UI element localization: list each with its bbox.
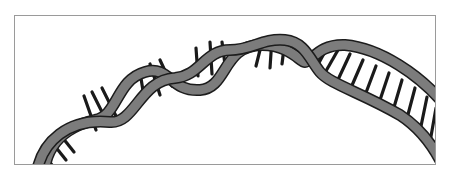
dna-illustration-canvas — [0, 0, 453, 174]
dna-helix-illustration — [0, 0, 453, 174]
dna-group — [36, 38, 445, 174]
